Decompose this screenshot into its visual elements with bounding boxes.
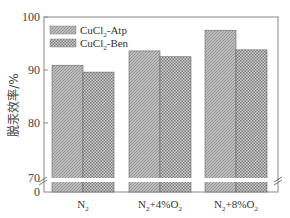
bar-atp-1 xyxy=(129,51,160,192)
legend-swatch-atp xyxy=(50,26,76,34)
bar-atp-2 xyxy=(205,30,236,192)
ytick-90: 90 xyxy=(28,63,40,77)
xtick-n2-8o2: N2+8%O2 xyxy=(214,198,258,213)
bars xyxy=(52,30,267,192)
ytick-80: 80 xyxy=(28,116,40,130)
break-mark-left xyxy=(39,177,47,185)
bar-atp-0 xyxy=(52,65,83,192)
xtick-n2: N2 xyxy=(77,198,89,213)
ytick-100: 100 xyxy=(22,10,40,24)
ytick-70: 70 xyxy=(28,171,40,185)
bar-chart: 100 90 80 70 0 脱汞效率/% CuCl2-Atp CuCl2-Be… xyxy=(0,0,290,218)
legend: CuCl2-Atp CuCl2-Ben xyxy=(50,24,129,52)
bar-ben-2 xyxy=(236,50,267,192)
bar-ben-0 xyxy=(83,72,114,192)
x-axis: N2 N2+4%O2 N2+8%O2 xyxy=(77,198,258,213)
xtick-n2-4o2: N2+4%O2 xyxy=(138,198,182,213)
legend-label-ben: CuCl2-Ben xyxy=(80,37,129,52)
legend-swatch-ben xyxy=(50,39,76,47)
axis-break xyxy=(45,178,277,182)
y-axis-label: 脱汞效率/% xyxy=(6,73,21,136)
ytick-0: 0 xyxy=(34,185,40,199)
bar-ben-1 xyxy=(160,57,191,192)
